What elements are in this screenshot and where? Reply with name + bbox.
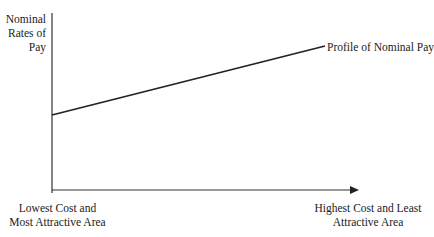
x-high-label-line: Highest Cost and Least (303, 201, 433, 215)
y-axis-label-line: Pay (2, 40, 46, 54)
nominal-pay-line (52, 46, 325, 115)
x-axis-high-label: Highest Cost and Least Attractive Area (303, 201, 433, 229)
x-axis-low-label: Lowest Cost and Most Attractive Area (0, 201, 115, 229)
y-axis-label: Nominal Rates of Pay (2, 12, 46, 54)
x-high-label-line: Attractive Area (303, 215, 433, 229)
x-low-label-line: Most Attractive Area (0, 215, 115, 229)
y-axis-label-line: Rates of (2, 26, 46, 40)
curve-label: Profile of Nominal Pay (327, 40, 434, 54)
y-axis-label-line: Nominal (2, 12, 46, 26)
x-axis-arrow-icon (350, 186, 359, 194)
x-low-label-line: Lowest Cost and (0, 201, 115, 215)
